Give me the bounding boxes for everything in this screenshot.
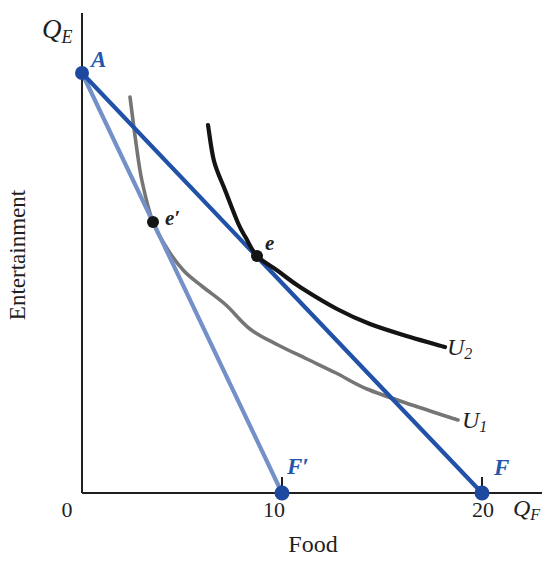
y-axis-title: Entertainment (5, 189, 30, 320)
figure-container: QEAe′eU2U1F′F01020QFFoodEntertainment (0, 0, 558, 566)
point-label-e: e (265, 231, 274, 255)
point-label-F: F (493, 455, 509, 480)
point-label-F-prime: F′ (286, 454, 309, 479)
figure-svg: QEAe′eU2U1F′F01020QFFoodEntertainment (0, 0, 558, 566)
tick-label-20: 20 (472, 497, 494, 522)
x-axis-title: Food (288, 531, 337, 557)
figure-background (0, 0, 558, 566)
point-e-dot (251, 250, 263, 262)
point-label-e-prime: e′ (165, 206, 180, 230)
point-A-dot (75, 66, 89, 80)
point-label-A: A (89, 47, 106, 72)
tick-label-0: 0 (62, 497, 73, 522)
tick-label-10: 10 (263, 497, 285, 522)
point-e-prime-dot (147, 216, 159, 228)
